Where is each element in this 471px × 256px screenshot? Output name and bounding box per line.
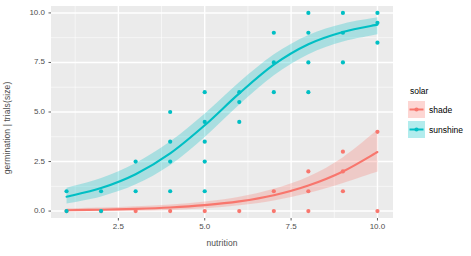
legend: solar shade sunshine xyxy=(408,86,471,141)
data-point-sunshine xyxy=(306,60,310,64)
legend-item-shade[interactable]: shade xyxy=(408,101,471,118)
y-tick-label: 10.0 xyxy=(15,8,45,17)
data-point-sunshine xyxy=(272,60,276,64)
data-point-sunshine xyxy=(341,60,345,64)
data-point-sunshine xyxy=(341,11,345,15)
data-point-sunshine xyxy=(375,11,379,15)
legend-label-sunshine: sunshine xyxy=(429,125,463,135)
data-point-shade xyxy=(237,209,241,213)
legend-key-shade xyxy=(408,101,425,118)
data-point-sunshine xyxy=(168,159,172,163)
data-point-shade xyxy=(272,189,276,193)
data-point-sunshine xyxy=(168,189,172,193)
y-tick-label: 0.0 xyxy=(15,206,45,215)
data-point-sunshine xyxy=(203,189,207,193)
legend-item-sunshine[interactable]: sunshine xyxy=(408,121,471,138)
data-point-sunshine xyxy=(99,189,103,193)
data-point-sunshine xyxy=(99,209,103,213)
data-point-sunshine xyxy=(272,90,276,94)
data-point-sunshine xyxy=(64,189,68,193)
data-point-shade xyxy=(203,209,207,213)
data-point-sunshine xyxy=(237,120,241,124)
data-point-sunshine xyxy=(306,90,310,94)
data-point-sunshine xyxy=(203,120,207,124)
data-point-shade xyxy=(341,169,345,173)
data-point-sunshine xyxy=(203,159,207,163)
y-tick-label: 5.0 xyxy=(15,107,45,116)
legend-label-shade: shade xyxy=(429,105,452,115)
data-point-sunshine xyxy=(375,41,379,45)
data-point-sunshine xyxy=(64,209,68,213)
data-point-sunshine xyxy=(203,140,207,144)
chart-root: germination | trials(size) nutrition sol… xyxy=(0,0,471,256)
plot-panel xyxy=(0,0,471,256)
data-point-shade xyxy=(375,130,379,134)
x-tick-label: 7.5 xyxy=(271,222,311,231)
data-point-shade xyxy=(306,189,310,193)
y-tick-label: 7.5 xyxy=(15,57,45,66)
data-point-shade xyxy=(168,209,172,213)
data-point-sunshine xyxy=(134,159,138,163)
x-tick-label: 5.0 xyxy=(185,222,225,231)
data-point-shade xyxy=(272,209,276,213)
data-point-shade xyxy=(341,150,345,154)
data-point-sunshine xyxy=(306,31,310,35)
x-tick-label: 10.0 xyxy=(357,222,397,231)
x-tick-label: 2.5 xyxy=(98,222,138,231)
y-tick-label: 2.5 xyxy=(15,157,45,166)
data-point-sunshine xyxy=(237,90,241,94)
data-point-sunshine xyxy=(168,140,172,144)
data-point-sunshine xyxy=(237,100,241,104)
data-point-sunshine xyxy=(306,11,310,15)
data-point-shade xyxy=(134,209,138,213)
legend-key-sunshine xyxy=(408,121,425,138)
data-point-sunshine xyxy=(341,31,345,35)
data-point-shade xyxy=(306,209,310,213)
data-point-sunshine xyxy=(272,31,276,35)
legend-title: solar xyxy=(410,86,471,96)
data-point-sunshine xyxy=(168,110,172,114)
data-point-sunshine xyxy=(134,189,138,193)
data-point-shade xyxy=(375,209,379,213)
data-point-sunshine xyxy=(203,90,207,94)
data-point-shade xyxy=(341,189,345,193)
data-point-shade xyxy=(306,169,310,173)
data-point-sunshine xyxy=(375,21,379,25)
